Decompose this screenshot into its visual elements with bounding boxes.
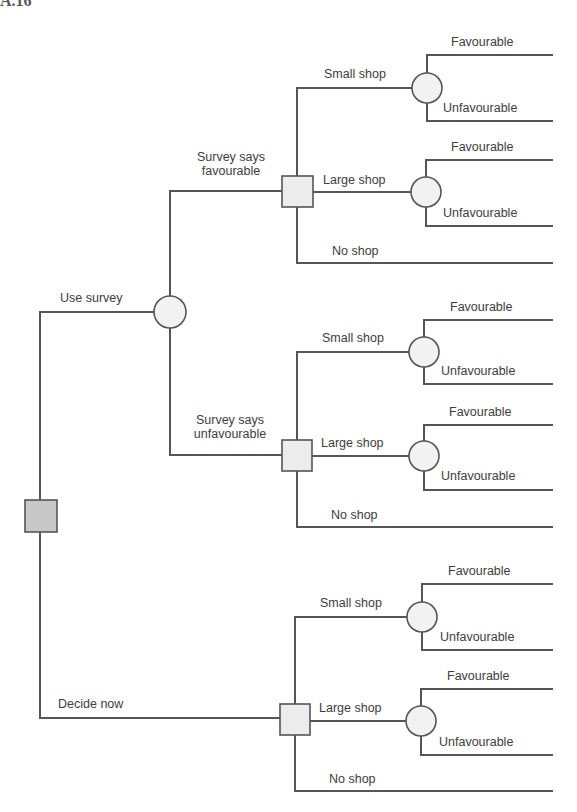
favourable-label: Favourable — [450, 300, 513, 314]
favourable-label: Favourable — [449, 405, 512, 419]
survey-fav-label: Survey says favourable — [186, 150, 276, 178]
decision-node-now — [280, 704, 310, 735]
small-shop-label: Small shop — [324, 67, 386, 81]
survey-unfav-label: Survey says unfavourable — [182, 413, 278, 441]
small-shop-label: Small shop — [322, 331, 384, 345]
large-shop-label: Large shop — [319, 701, 382, 715]
unfavourable-label: Unfavourable — [440, 630, 514, 644]
small-shop-label: Small shop — [320, 596, 382, 610]
favourable-label: Favourable — [451, 140, 514, 154]
decide-now-label: Decide now — [58, 697, 123, 711]
favourable-label: Favourable — [447, 669, 510, 683]
no-shop-label: No shop — [332, 244, 379, 258]
unfavourable-label: Unfavourable — [439, 735, 513, 749]
favourable-label: Favourable — [451, 35, 514, 49]
favourable-label: Favourable — [448, 564, 511, 578]
decision-tree: A.16 — [0, 0, 577, 812]
use-survey-label: Use survey — [60, 291, 123, 305]
unfavourable-label: Unfavourable — [441, 364, 515, 378]
root-decision-node — [25, 500, 57, 532]
no-shop-label: No shop — [329, 772, 376, 786]
decision-node-fav — [282, 176, 313, 207]
large-shop-label: Large shop — [321, 436, 384, 450]
unfavourable-label: Unfavourable — [441, 469, 515, 483]
unfavourable-label: Unfavourable — [443, 206, 517, 220]
survey-chance-node — [154, 296, 186, 328]
unfavourable-label: Unfavourable — [443, 101, 517, 115]
decision-node-unfav — [282, 440, 312, 471]
large-shop-label: Large shop — [323, 173, 386, 187]
no-shop-label: No shop — [331, 508, 378, 522]
